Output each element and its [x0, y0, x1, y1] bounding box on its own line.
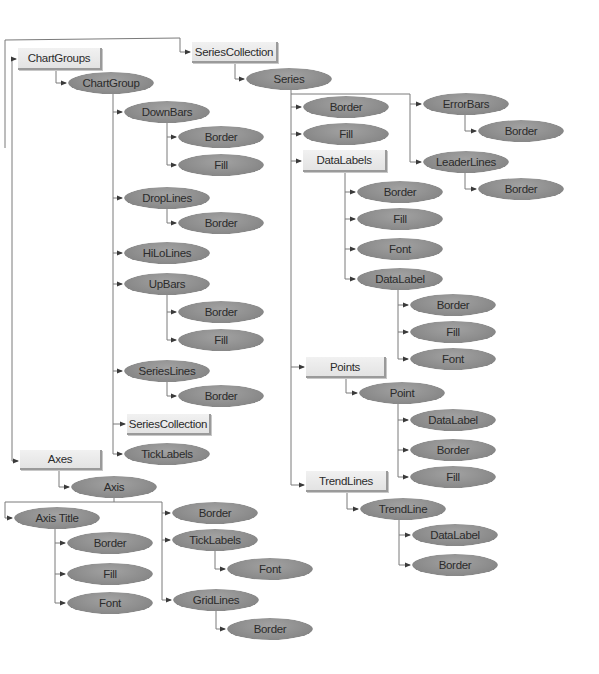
node-label: Font: [442, 353, 464, 365]
node-label: Font: [259, 563, 281, 575]
node-label: Border: [205, 217, 238, 229]
object-oval-gridlines-border: Border: [227, 618, 313, 640]
node-label: Fill: [339, 128, 353, 140]
node-label: Border: [205, 306, 238, 318]
node-label: TickLabels: [141, 448, 193, 460]
object-model-diagram: ChartGroupsChartGroupDownBarsBorderFillD…: [0, 0, 599, 674]
object-oval-datalabel-font: Font: [410, 348, 496, 370]
node-label: Border: [205, 131, 238, 143]
connector-edge: [215, 551, 225, 569]
node-label: Border: [199, 507, 232, 519]
object-oval-axistitle-font: Font: [67, 592, 153, 614]
node-label: Border: [254, 623, 287, 635]
collection-box-seriescollection: SeriesCollection: [192, 42, 278, 63]
collection-box-points: Points: [306, 357, 386, 378]
object-oval-axistitle-fill: Fill: [67, 563, 153, 585]
connector-edge: [346, 378, 357, 393]
object-oval-downbars-fill: Fill: [178, 154, 264, 176]
object-oval-ticklabels-font: Font: [227, 558, 313, 580]
node-label: Fill: [393, 213, 407, 225]
object-oval-trendline-datalabel: DataLabel: [412, 524, 498, 546]
collection-box-seriescollection-inner: SeriesCollection: [127, 414, 211, 435]
node-label: Border: [384, 186, 417, 198]
collection-box-datalabels: DataLabels: [303, 150, 387, 172]
node-label: Fill: [214, 159, 228, 171]
node-label: Fill: [103, 568, 117, 580]
object-oval-downbars: DownBars: [124, 101, 210, 123]
node-label: Fill: [446, 471, 460, 483]
node-label: Font: [389, 243, 411, 255]
object-oval-datalabels-font: Font: [357, 238, 443, 260]
node-label: SeriesLines: [139, 365, 196, 377]
node-label: Border: [505, 125, 538, 137]
object-oval-point-datalabel: DataLabel: [410, 409, 496, 431]
object-oval-series: Series: [246, 68, 332, 90]
object-oval-axis-ticklabels: TickLabels: [172, 529, 258, 551]
node-label: DownBars: [142, 106, 193, 118]
object-oval-downbars-border: Border: [178, 126, 264, 148]
node-label: Fill: [446, 326, 460, 338]
connector-edge: [465, 173, 476, 189]
object-oval-point: Point: [359, 382, 445, 404]
object-oval-datalabels-border: Border: [357, 181, 443, 203]
connector-edge: [216, 611, 225, 629]
node-label: Border: [94, 537, 127, 549]
object-oval-serieslines: SeriesLines: [124, 360, 210, 382]
object-oval-datalabel-border: Border: [410, 294, 496, 316]
node-label: Border: [437, 299, 470, 311]
node-label: GridLines: [193, 594, 240, 606]
object-oval-hilolines: HiLoLines: [124, 242, 210, 264]
object-oval-trendline-border: Border: [412, 554, 498, 576]
node-label: ErrorBars: [443, 98, 490, 110]
node-label: Point: [390, 387, 415, 399]
object-oval-droplines-border: Border: [178, 212, 264, 234]
object-oval-serieslines-border: Border: [178, 385, 264, 407]
node-label: TrendLine: [379, 503, 428, 515]
object-oval-errorbars: ErrorBars: [423, 93, 509, 115]
connector-edge: [347, 492, 358, 509]
connector-edge: [235, 63, 244, 79]
object-oval-axis-border: Border: [172, 502, 258, 524]
node-label: SeriesCollection: [129, 418, 207, 430]
object-oval-datalabel: DataLabel: [357, 268, 443, 290]
node-label: Border: [439, 559, 472, 571]
collection-box-chartgroups: ChartGroups: [18, 48, 102, 70]
object-oval-datalabels-fill: Fill: [357, 208, 443, 230]
node-label: Fill: [214, 334, 228, 346]
connector-edge: [465, 115, 476, 131]
object-oval-droplines: DropLines: [124, 187, 210, 209]
node-label: Border: [437, 444, 470, 456]
object-oval-trendline: TrendLine: [360, 498, 446, 520]
node-label: HiLoLines: [143, 247, 191, 259]
node-label: DataLabel: [428, 414, 478, 426]
node-label: DropLines: [142, 192, 192, 204]
node-label: Axis: [104, 481, 125, 493]
node-label: Border: [205, 390, 238, 402]
object-oval-chartgroup: ChartGroup: [68, 72, 154, 94]
node-label: Border: [505, 183, 538, 195]
object-oval-errorbars-border: Border: [478, 120, 564, 142]
node-label: Axis Title: [35, 512, 78, 524]
connector-edge: [56, 70, 66, 83]
node-label: DataLabel: [430, 529, 480, 541]
object-oval-upbars-border: Border: [178, 301, 264, 323]
node-label: UpBars: [149, 278, 186, 290]
node-label: Font: [99, 597, 121, 609]
connector-edge: [12, 59, 16, 148]
node-label: DataLabel: [375, 273, 425, 285]
object-oval-gridlines: GridLines: [173, 589, 259, 611]
object-oval-leaderlines-border: Border: [478, 178, 564, 200]
node-label: TrendLines: [319, 475, 373, 487]
object-oval-series-border: Border: [303, 96, 389, 118]
connector-edge: [167, 209, 176, 223]
node-label: Border: [330, 101, 363, 113]
object-oval-ticklabels-cg: TickLabels: [124, 443, 210, 465]
node-label: ChartGroups: [28, 52, 91, 64]
node-label: SeriesCollection: [195, 46, 273, 58]
node-label: TickLabels: [189, 534, 241, 546]
connector-edge: [167, 382, 176, 396]
node-label: Axes: [48, 453, 72, 465]
node-label: LeaderLines: [436, 156, 496, 168]
object-oval-datalabel-fill: Fill: [410, 321, 496, 343]
object-oval-axistitle: Axis Title: [14, 507, 100, 529]
